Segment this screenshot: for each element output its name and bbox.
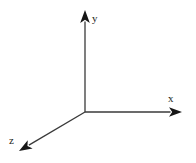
y-axis-group bbox=[80, 10, 90, 112]
z-axis-group bbox=[19, 112, 85, 151]
x-axis-group bbox=[85, 107, 182, 117]
z-axis-label: z bbox=[9, 135, 14, 146]
x-axis-arrowhead-icon bbox=[169, 107, 182, 117]
z-axis-arrowhead-icon bbox=[19, 140, 33, 151]
x-axis-label: x bbox=[168, 93, 174, 104]
axes-drawing bbox=[0, 0, 196, 163]
y-axis-label: y bbox=[92, 13, 98, 24]
z-axis-line bbox=[29, 112, 85, 145]
coordinate-axes-figure: y x z bbox=[0, 0, 196, 163]
y-axis-arrowhead-icon bbox=[80, 10, 90, 23]
